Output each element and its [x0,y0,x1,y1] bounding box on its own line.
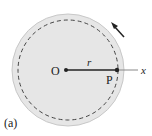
point-p [115,68,119,72]
radius-label: r [87,56,92,68]
x-axis-label: x [140,64,146,76]
panel-label: (a) [4,116,17,130]
rotation-arrow-icon [111,22,124,37]
rotating-disk-diagram: O r P x (a) [0,0,152,136]
center-point [64,68,68,72]
point-label: P [106,73,113,87]
center-label: O [51,64,60,78]
